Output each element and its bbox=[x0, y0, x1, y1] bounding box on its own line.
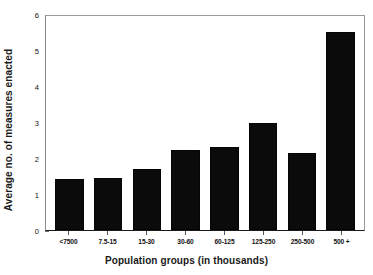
x-axis-tick-slot bbox=[88, 231, 127, 235]
x-axis-tick-label: 15-30 bbox=[127, 236, 166, 248]
bar-slot bbox=[50, 16, 89, 230]
bar[interactable] bbox=[210, 147, 239, 230]
bar-slot bbox=[205, 16, 244, 230]
bar-series bbox=[46, 16, 364, 230]
y-axis-tick-label: 5 bbox=[0, 46, 44, 57]
x-axis-tick-slot bbox=[49, 231, 88, 235]
bar[interactable] bbox=[326, 32, 355, 230]
x-axis-tick-label: 30-60 bbox=[166, 236, 205, 248]
bar-slot bbox=[283, 16, 322, 230]
x-axis-tick-slot bbox=[283, 231, 322, 235]
x-axis-tick-label: 7.5-15 bbox=[88, 236, 127, 248]
x-axis-tick-mark bbox=[224, 231, 225, 235]
y-axis-tick-label: 1 bbox=[0, 190, 44, 201]
x-axis-title: Population groups (in thousands) bbox=[0, 254, 373, 268]
x-axis-tick-slot bbox=[205, 231, 244, 235]
x-axis-tick-mark bbox=[302, 231, 303, 235]
y-axis-tick-label: 6 bbox=[0, 10, 44, 21]
bar-slot bbox=[166, 16, 205, 230]
x-axis-tick-mark bbox=[341, 231, 342, 235]
y-axis-tick-label: 0 bbox=[0, 226, 44, 237]
bar[interactable] bbox=[94, 178, 123, 230]
x-axis-tick-label: 500 + bbox=[322, 236, 361, 248]
y-axis-tick-label: 2 bbox=[0, 154, 44, 165]
x-axis-tick-mark bbox=[185, 231, 186, 235]
x-axis-tick-mark bbox=[146, 231, 147, 235]
y-axis-tick-label: 3 bbox=[0, 118, 44, 129]
x-axis-tick-label: 250-500 bbox=[283, 236, 322, 248]
x-axis-tick-label: 125-250 bbox=[244, 236, 283, 248]
x-axis-tick-mark bbox=[107, 231, 108, 235]
x-axis-tick-slot bbox=[322, 231, 361, 235]
bar-chart-figure: Average no. of measures enacted 0123456 … bbox=[0, 0, 373, 275]
bar[interactable] bbox=[288, 153, 317, 230]
bar[interactable] bbox=[249, 123, 278, 230]
x-axis-tick-slot bbox=[244, 231, 283, 235]
x-axis-tick-label: <7500 bbox=[49, 236, 88, 248]
plot-area bbox=[45, 15, 365, 231]
bar[interactable] bbox=[133, 169, 162, 230]
x-axis-tick-slot bbox=[127, 231, 166, 235]
x-axis-tick-mark bbox=[263, 231, 264, 235]
bar-slot bbox=[244, 16, 283, 230]
x-axis-tick-marks bbox=[45, 231, 365, 235]
x-axis-tick-mark bbox=[68, 231, 69, 235]
bar-slot bbox=[89, 16, 128, 230]
bar-slot bbox=[128, 16, 167, 230]
x-axis-tick-slot bbox=[166, 231, 205, 235]
bar[interactable] bbox=[171, 150, 200, 230]
bar-slot bbox=[321, 16, 360, 230]
y-axis-tick-label: 4 bbox=[0, 82, 44, 93]
x-axis-tick-label: 60-125 bbox=[205, 236, 244, 248]
x-axis-tick-labels: <75007.5-1515-3030-6060-125125-250250-50… bbox=[45, 236, 365, 248]
bar[interactable] bbox=[55, 179, 84, 230]
